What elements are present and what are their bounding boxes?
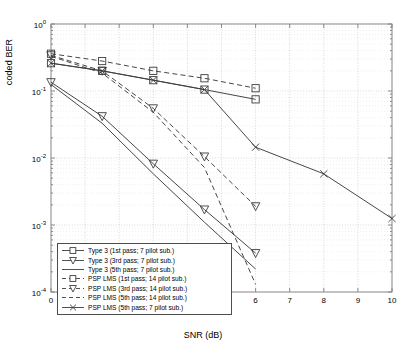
- y-tick-label: 100: [14, 19, 46, 30]
- legend-item: PSP LMS (5th pass; 7 pilot sub.): [60, 302, 228, 311]
- legend-item-label: PSP LMS (3rd pass; 14 pilot sub.): [86, 285, 187, 292]
- legend-symbol-triangle-down: [60, 284, 86, 293]
- legend-item: PSP LMS (3rd pass; 14 pilot sub.): [60, 284, 228, 293]
- chart-legend: Type 3 (1st pass; 7 pilot sub.)Type 3 (3…: [57, 243, 232, 315]
- legend-symbol-none: [60, 293, 86, 302]
- y-axis-label: coded BER: [4, 12, 14, 112]
- legend-symbol-none: [60, 265, 86, 274]
- legend-symbol-square: [60, 246, 86, 255]
- legend-item-label: PSP LMS (1st pass; 14 pilot sub.): [86, 275, 186, 282]
- legend-item: PSP LMS (1st pass; 14 pilot sub.): [60, 274, 228, 283]
- legend-symbol-square: [60, 274, 86, 283]
- legend-symbol-triangle-down: [60, 256, 86, 265]
- legend-item: Type 3 (1st pass; 7 pilot sub.): [60, 246, 228, 255]
- y-tick-label: 10-3: [14, 220, 46, 231]
- x-tick-label: 6: [246, 296, 266, 305]
- x-tick-label: 10: [382, 296, 402, 305]
- legend-symbol-x: [60, 303, 86, 312]
- legend-item: Type 3 (5th pass; 7 pilot sub.): [60, 265, 228, 274]
- chart-figure: coded BER SNR (dB) 10010-110-210-310-4 0…: [0, 0, 406, 349]
- x-tick-label: 9: [348, 296, 368, 305]
- legend-item-label: PSP LMS (5th pass; 7 pilot sub.): [86, 304, 183, 311]
- legend-item-label: Type 3 (5th pass; 7 pilot sub.): [86, 266, 175, 273]
- legend-item-label: Type 3 (3rd pass; 7 pilot sub.): [86, 257, 175, 264]
- x-tick-label: 8: [314, 296, 334, 305]
- y-tick-label: 10-1: [14, 86, 46, 97]
- y-tick-label: 10-2: [14, 153, 46, 164]
- legend-item: PSP LMS (5th pass; 14 pilot sub.): [60, 293, 228, 302]
- legend-item-label: PSP LMS (5th pass; 14 pilot sub.): [86, 294, 187, 301]
- legend-item-label: Type 3 (1st pass; 7 pilot sub.): [86, 247, 174, 254]
- x-axis-label: SNR (dB): [0, 330, 406, 340]
- x-tick-label: 7: [280, 296, 300, 305]
- legend-item: Type 3 (3rd pass; 7 pilot sub.): [60, 255, 228, 264]
